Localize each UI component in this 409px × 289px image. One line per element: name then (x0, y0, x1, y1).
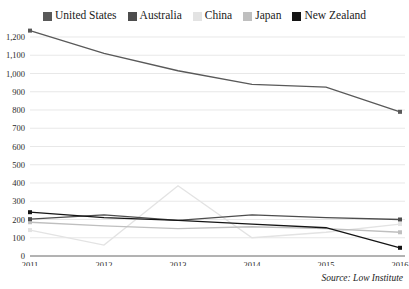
plot-area: 01002003004005006007008009001,0001,1001,… (0, 26, 409, 266)
y-axis-tick-labels: 01002003004005006007008009001,0001,1001,… (6, 32, 25, 261)
series-endpoint-marker (398, 230, 402, 234)
series-endpoint-marker (398, 222, 402, 226)
y-tick-label: 500 (12, 160, 25, 170)
x-tick-label: 2016 (392, 260, 409, 266)
y-tick-label: 200 (12, 215, 25, 225)
series-endpoint-marker (28, 217, 32, 221)
y-tick-label: 700 (12, 123, 25, 133)
y-tick-label: 300 (12, 196, 25, 206)
legend-swatch-new-zealand-icon (292, 12, 301, 21)
y-tick-label: 600 (12, 142, 25, 152)
x-tick-label: 2013 (170, 260, 187, 266)
series-line-united-states[interactable] (30, 31, 400, 112)
gridlines (30, 37, 405, 238)
x-tick-label: 2012 (96, 260, 113, 266)
series-endpoint-marker (398, 218, 402, 222)
source-note: Source: Low Institute (322, 273, 403, 283)
legend-swatch-china-icon (193, 12, 202, 21)
plot-svg: 01002003004005006007008009001,0001,1001,… (0, 26, 409, 266)
y-tick-label: 1,000 (6, 69, 25, 79)
series-endpoint-marker (28, 228, 32, 232)
x-tick-label: 2015 (318, 260, 335, 266)
legend-swatch-united-states-icon (43, 12, 52, 21)
y-tick-label: 900 (12, 87, 25, 97)
legend-item-new-zealand[interactable]: New Zealand (292, 10, 366, 22)
series-lines (28, 29, 402, 250)
x-axis-tick-labels: 201120122013201420152016 (22, 260, 409, 266)
line-chart: United StatesAustraliaChinaJapanNew Zeal… (0, 0, 409, 289)
legend-item-japan[interactable]: Japan (243, 10, 281, 22)
legend-label: Japan (255, 10, 281, 22)
y-tick-label: 100 (12, 233, 25, 243)
y-tick-label: 1,100 (6, 50, 25, 60)
legend-label: China (205, 10, 232, 22)
legend-item-united-states[interactable]: United States (43, 10, 117, 22)
legend-swatch-australia-icon (128, 12, 137, 21)
y-tick-label: 800 (12, 105, 25, 115)
series-endpoint-marker (398, 246, 402, 250)
y-tick-label: 1,200 (6, 32, 25, 42)
chart-legend: United StatesAustraliaChinaJapanNew Zeal… (0, 6, 409, 26)
series-endpoint-marker (398, 110, 402, 114)
legend-label: United States (55, 10, 117, 22)
legend-swatch-japan-icon (243, 12, 252, 21)
legend-item-australia[interactable]: Australia (128, 10, 182, 22)
y-tick-label: 400 (12, 178, 25, 188)
x-tick-label: 2011 (22, 260, 39, 266)
legend-label: Australia (140, 10, 182, 22)
x-tick-label: 2014 (244, 260, 262, 266)
series-endpoint-marker (28, 29, 32, 33)
legend-item-china[interactable]: China (193, 10, 232, 22)
legend-label: New Zealand (304, 10, 366, 22)
series-endpoint-marker (28, 210, 32, 214)
